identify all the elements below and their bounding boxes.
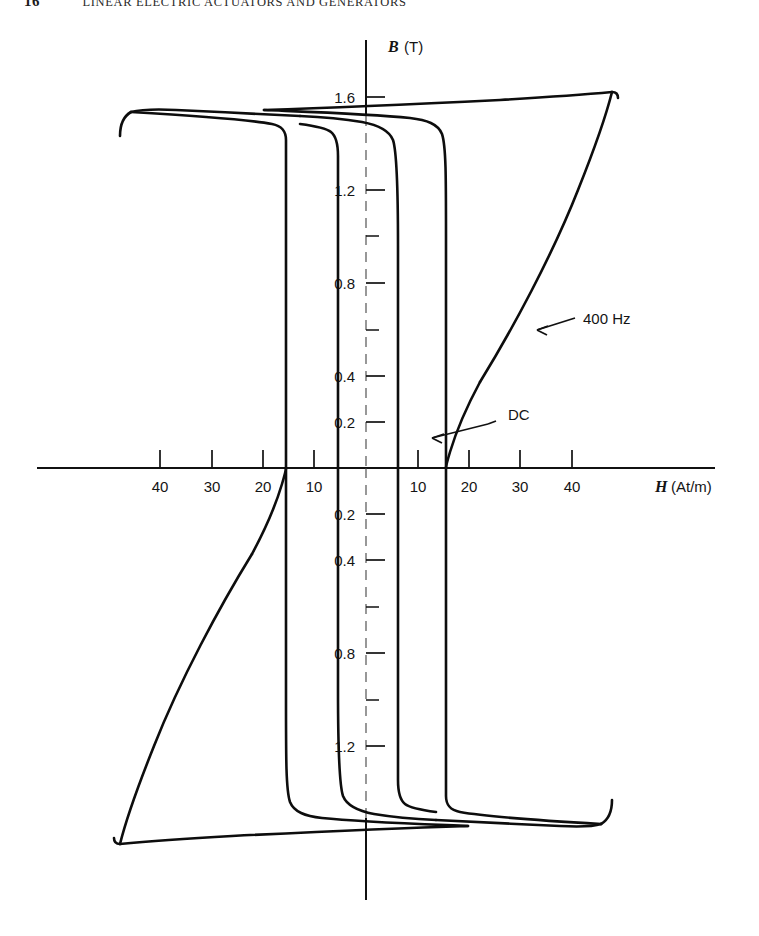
x-tick-label-neg-40: 40 <box>152 478 169 495</box>
axis-titles-group: B (T) H (At/m) <box>387 38 712 495</box>
b-axis-unit: (T) <box>404 38 423 55</box>
h-axis-symbol: H <box>654 478 668 495</box>
x-tick-label-neg-30: 30 <box>204 478 221 495</box>
annotation-dc-arrowhead <box>432 434 444 443</box>
x-tick-label-neg-10: 10 <box>306 478 323 495</box>
curve-saturation-lower-line <box>120 826 468 844</box>
annotation-400hz-label: 400 Hz <box>583 310 631 327</box>
curve-400hz-left-flank <box>120 554 252 844</box>
x-tick-label-neg-20: 20 <box>255 478 272 495</box>
curve-400hz-right-flank <box>480 92 612 382</box>
curve-dc-upper-branch <box>300 124 436 820</box>
curve-dc-lower-branch <box>300 116 436 812</box>
x-tick-label-pos-40: 40 <box>564 478 581 495</box>
y-ticks-positive-group: 1.6 1.2 0.8 0.4 0.2 <box>334 89 385 431</box>
x-tick-label-pos-20: 20 <box>461 478 478 495</box>
curve-400hz-right-knee <box>446 382 480 468</box>
annotation-dc-leader-tail <box>488 421 496 424</box>
curve-400hz-left-tail <box>120 112 131 136</box>
x-ticks-negative-group: 40 30 20 10 <box>152 450 323 495</box>
annotation-dc-label: DC <box>508 406 530 423</box>
curve-saturation-upper-line <box>264 92 612 110</box>
x-ticks-positive-group: 10 20 30 40 <box>410 450 581 495</box>
bh-hysteresis-figure: B (T) H (At/m) 1.6 1.2 0.8 0.4 0.2 <box>0 0 759 936</box>
axes-group <box>37 40 715 900</box>
x-tick-label-pos-30: 30 <box>512 478 529 495</box>
y-tick-label-1p6: 1.6 <box>334 89 355 106</box>
annotation-400hz: 400 Hz <box>537 310 631 335</box>
b-axis-symbol: B <box>387 38 399 55</box>
y-ticks-negative-group: 0.2 0.4 0.8 1.2 <box>334 506 385 755</box>
x-tick-label-pos-10: 10 <box>410 478 427 495</box>
curve-400hz-left-corner <box>114 838 120 844</box>
curve-400hz-right-corner <box>612 92 618 98</box>
h-axis-unit: (At/m) <box>671 478 712 495</box>
curve-400hz-right-tail <box>601 800 612 824</box>
annotation-400hz-arrowhead <box>537 326 548 335</box>
